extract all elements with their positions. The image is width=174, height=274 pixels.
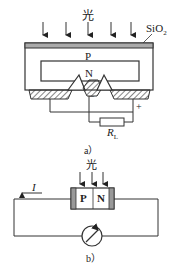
- oxide-label-text: SiO: [146, 22, 163, 34]
- wire-right: [124, 112, 133, 122]
- oxide-label: SiO2: [146, 22, 167, 37]
- resistor-label-text: R: [107, 126, 114, 138]
- current-label: I: [32, 181, 36, 193]
- n-label-a: N: [85, 67, 93, 79]
- resistor-label: RL: [107, 126, 118, 141]
- photodiode-diagram: [0, 0, 174, 274]
- p-label-b: P: [80, 192, 87, 204]
- light-label-a: 光: [82, 6, 94, 23]
- plus-label: +: [136, 101, 142, 112]
- caption-b: b）: [86, 250, 101, 265]
- minus-label: −: [89, 91, 95, 102]
- p-label-a: P: [85, 50, 91, 62]
- light-label-b: 光: [86, 156, 97, 172]
- left-electrode: [29, 90, 72, 99]
- right-contact: [109, 188, 114, 209]
- right-electrode: [110, 90, 150, 99]
- n-label-b: N: [97, 192, 105, 204]
- load-resistor: [100, 118, 124, 126]
- pn-junction: [71, 188, 114, 209]
- light-arrows-b: [80, 172, 103, 184]
- sio2-layer: [25, 43, 153, 48]
- resistor-label-sub: L: [114, 133, 118, 141]
- light-arrows-a: [43, 22, 131, 35]
- caption-a: a）: [84, 142, 98, 157]
- oxide-label-sub: 2: [163, 29, 167, 37]
- left-contact: [71, 188, 76, 209]
